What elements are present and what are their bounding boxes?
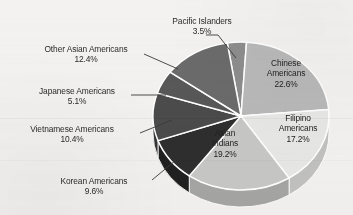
slice-label-name: Other Asian Americans (44, 44, 127, 54)
slice-label-asian-indians: Asian Indians 19.2% (194, 128, 256, 159)
slice-label-value: 5.1% (16, 96, 138, 106)
slice-label-name-line2: Americans (250, 68, 322, 78)
slice-label-korean-americans: Korean Americans 9.6% (32, 176, 156, 197)
slice-label-vietnamese-americans: Vietnamese Americans 10.4% (4, 124, 140, 145)
slice-label-value: 22.6% (250, 79, 322, 89)
slice-label-other-asian-americans: Other Asian Americans 12.4% (24, 44, 148, 65)
slice-label-japanese-americans: Japanese Americans 5.1% (16, 86, 138, 107)
slice-label-name-line2: Indians (194, 138, 256, 148)
slice-label-value: 3.5% (148, 26, 256, 36)
slice-label-name: Korean Americans (61, 176, 128, 186)
slice-label-filipino-americans: Filipino Americans 17.2% (262, 113, 334, 144)
slice-label-value: 19.2% (194, 149, 256, 159)
slice-label-name: Japanese Americans (39, 86, 115, 96)
slice-label-value: 17.2% (262, 134, 334, 144)
slice-label-name-line1: Asian (215, 128, 235, 138)
slice-label-chinese-americans: Chinese Americans 22.6% (250, 58, 322, 89)
slice-label-pacific-islanders: Pacific Islanders 3.5% (148, 16, 256, 37)
slice-label-value: 12.4% (24, 54, 148, 64)
slice-label-name-line2: Americans (262, 123, 334, 133)
slice-label-name: Pacific Islanders (172, 16, 231, 26)
leader-line-other-asian-americans (144, 54, 178, 69)
slice-label-value: 10.4% (4, 134, 140, 144)
slice-label-name-line1: Filipino (285, 113, 311, 123)
slice-label-name: Vietnamese Americans (30, 124, 114, 134)
slice-label-value: 9.6% (32, 186, 156, 196)
slice-label-name-line1: Chinese (271, 58, 301, 68)
